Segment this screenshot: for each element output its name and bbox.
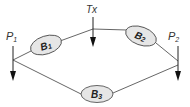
label-p2: P2 [168,30,179,43]
edge-b2-p2 [156,43,178,61]
tx-arrowhead-icon [90,37,96,47]
circuit-diagram: P1 P2 Tx B1 B2 B3 [0,0,190,107]
edge-p1-b1 [13,50,33,60]
p1-arrowhead-icon [10,71,16,81]
p2-arrowhead-icon [175,71,181,81]
edge-p1-b3 [13,60,81,94]
edge-tx-b2 [93,29,127,30]
edge-b3-p2 [113,65,178,93]
label-tx: Tx [86,4,98,15]
label-p1: P1 [6,30,17,43]
edge-b1-tx [60,29,93,41]
